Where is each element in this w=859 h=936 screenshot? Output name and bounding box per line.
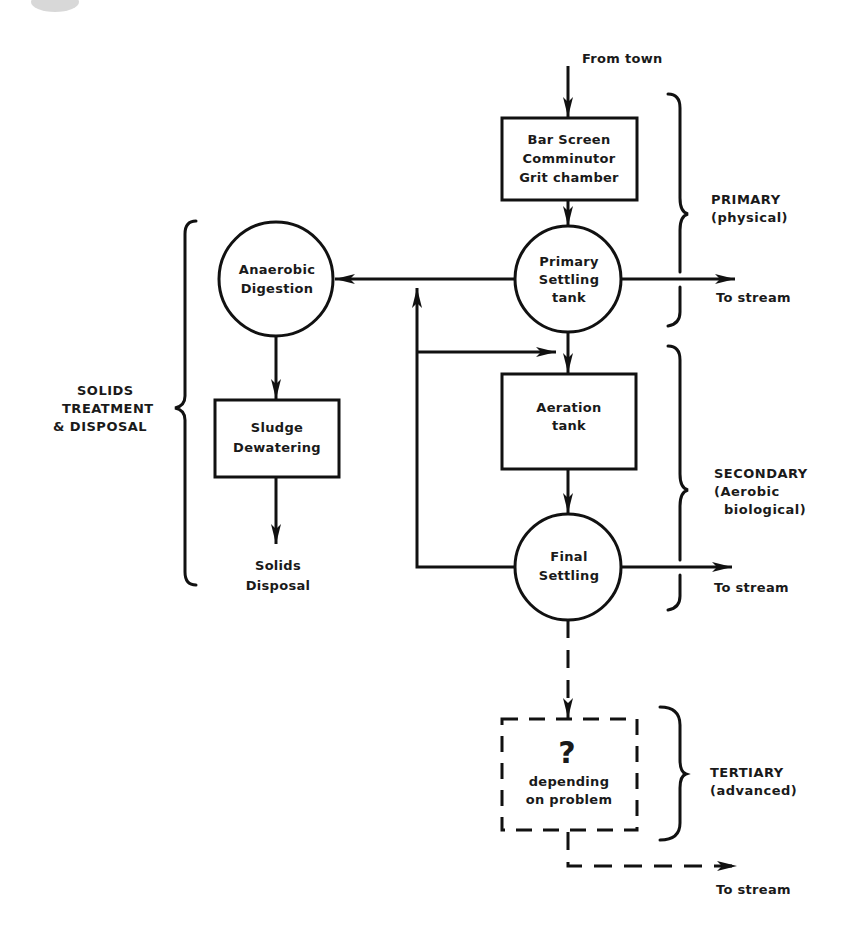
primary-brace <box>668 94 688 272</box>
primary-output-label: To stream <box>716 290 791 305</box>
svg-text:tank: tank <box>552 290 586 305</box>
svg-text:(Aerobic: (Aerobic <box>714 484 780 499</box>
question-mark-icon: ? <box>558 735 575 770</box>
treatment-flow-diagram: From town Bar Screen Comminutor Grit cha… <box>0 0 859 936</box>
svg-text:SOLIDS: SOLIDS <box>77 383 134 398</box>
svg-text:PRIMARY: PRIMARY <box>711 192 781 207</box>
tertiary-brace <box>660 707 686 840</box>
svg-text:(physical): (physical) <box>711 210 788 225</box>
arrow-return-to-digester <box>417 288 515 567</box>
svg-text:biological): biological) <box>724 502 806 517</box>
node-tertiary-unit: ? depending on problem <box>502 719 637 830</box>
svg-text:Primary: Primary <box>539 254 599 269</box>
svg-text:Settling: Settling <box>539 568 599 583</box>
svg-text:TERTIARY: TERTIARY <box>710 765 784 780</box>
secondary-brace-end <box>668 575 680 610</box>
stage-secondary-label: SECONDARY (Aerobic biological) <box>714 466 808 517</box>
svg-text:Anaerobic: Anaerobic <box>239 262 315 277</box>
svg-text:Digestion: Digestion <box>241 281 314 296</box>
node-sludge-dewatering: Sludge Dewatering <box>215 400 339 477</box>
svg-text:Final: Final <box>550 549 587 564</box>
stage-primary-label: PRIMARY (physical) <box>711 192 788 225</box>
primary-brace-end <box>668 287 680 326</box>
solids-brace <box>175 221 196 585</box>
node-anaerobic-digestion: Anaerobic Digestion <box>219 222 333 336</box>
arrow-tertiary-to-stream <box>568 832 737 866</box>
scan-artifact <box>31 0 79 12</box>
svg-text:Comminutor: Comminutor <box>522 151 615 166</box>
svg-text:on problem: on problem <box>526 792 612 807</box>
svg-text:& DISPOSAL: & DISPOSAL <box>53 419 147 434</box>
svg-text:depending: depending <box>529 774 610 789</box>
svg-text:Aeration: Aeration <box>536 400 601 415</box>
secondary-output-label: To stream <box>714 580 789 595</box>
svg-text:Settling: Settling <box>539 272 599 287</box>
secondary-brace <box>668 346 688 560</box>
svg-text:tank: tank <box>552 418 586 433</box>
node-primary-settling: Primary Settling tank <box>515 226 621 332</box>
node-final-settling: Final Settling <box>515 514 621 620</box>
node-aeration-tank: Aeration tank <box>502 374 636 469</box>
stage-tertiary-label: TERTIARY (advanced) <box>710 765 797 798</box>
svg-text:Grit chamber: Grit chamber <box>519 170 619 185</box>
node-bar-screen: Bar Screen Comminutor Grit chamber <box>502 118 637 200</box>
svg-text:SECONDARY: SECONDARY <box>714 466 808 481</box>
input-label: From town <box>582 51 663 66</box>
svg-text:Sludge: Sludge <box>251 420 303 435</box>
svg-text:Disposal: Disposal <box>246 578 311 593</box>
stage-solids-label: SOLIDS TREATMENT & DISPOSAL <box>53 383 154 434</box>
node-solids-disposal: Solids Disposal <box>246 558 311 593</box>
svg-text:Solids: Solids <box>255 558 301 573</box>
svg-text:TREATMENT: TREATMENT <box>62 401 154 416</box>
svg-text:(advanced): (advanced) <box>710 783 797 798</box>
tertiary-output-label: To stream <box>716 882 791 897</box>
svg-text:Dewatering: Dewatering <box>233 440 321 455</box>
svg-text:Bar Screen: Bar Screen <box>528 132 611 147</box>
